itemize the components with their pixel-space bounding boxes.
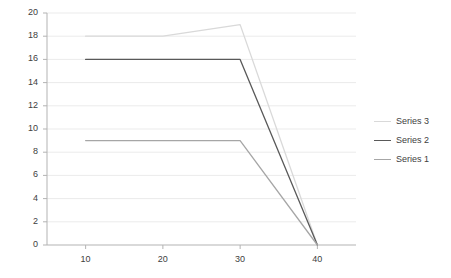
- y-tick-label: 4: [0, 194, 38, 203]
- y-tick-label: 20: [0, 8, 38, 17]
- y-tick-label: 14: [0, 78, 38, 87]
- series-line: [86, 25, 318, 245]
- y-tick-marks: [43, 13, 47, 245]
- gridlines: [47, 13, 356, 222]
- legend-item[interactable]: Series 2: [374, 131, 451, 150]
- y-tick-label: 0: [0, 240, 38, 249]
- x-tick-marks: [86, 245, 318, 249]
- legend-color-swatch: [374, 140, 391, 141]
- line-chart: 02468101214161820 10203040 Series 3Serie…: [0, 0, 451, 278]
- y-tick-label: 18: [0, 31, 38, 40]
- y-tick-label: 8: [0, 147, 38, 156]
- legend-label: Series 2: [396, 136, 429, 145]
- series-line: [86, 141, 318, 245]
- legend-label: Series 3: [396, 117, 429, 126]
- legend-item[interactable]: Series 1: [374, 150, 451, 169]
- y-tick-label: 6: [0, 170, 38, 179]
- y-tick-label: 2: [0, 217, 38, 226]
- x-tick-label: 40: [297, 255, 337, 264]
- chart-legend: Series 3Series 2Series 1: [374, 112, 451, 169]
- legend-color-swatch: [374, 159, 391, 160]
- series-lines: [86, 25, 318, 245]
- x-tick-label: 20: [143, 255, 183, 264]
- legend-color-swatch: [374, 121, 391, 122]
- legend-item[interactable]: Series 3: [374, 112, 451, 131]
- legend-label: Series 1: [396, 155, 429, 164]
- x-tick-label: 10: [66, 255, 106, 264]
- y-tick-label: 16: [0, 54, 38, 63]
- y-tick-label: 10: [0, 124, 38, 133]
- y-tick-label: 12: [0, 101, 38, 110]
- x-tick-label: 30: [220, 255, 260, 264]
